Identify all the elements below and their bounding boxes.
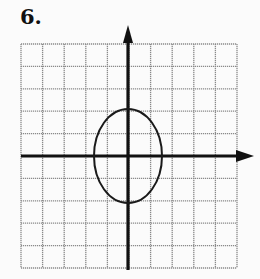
y-axis-arrow-icon [123, 25, 133, 43]
y-axis [123, 25, 133, 270]
coordinate-graph [0, 0, 260, 279]
x-axis-arrow-icon [236, 150, 254, 162]
x-axis [21, 150, 254, 162]
